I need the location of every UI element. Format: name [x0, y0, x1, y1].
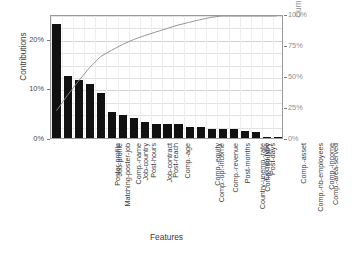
cumulative-line-path	[57, 16, 277, 111]
x-axis-tick-label: Comp.-asset	[299, 143, 308, 184]
x-axis-tick-label: Post-months	[243, 143, 252, 183]
x-axis-tick-label: Post-reach	[171, 143, 180, 178]
chart-figure: 0%10%20% 0%25%50%75%100% Contributions C…	[0, 0, 360, 255]
x-axis-tick-label: Comp.-revenue	[230, 143, 239, 193]
x-axis-tick-label: Comp.-income	[327, 143, 336, 190]
x-axis-tick-label: Comp.-equity	[212, 143, 221, 186]
y-axis-right-tick-label: 0%	[288, 134, 328, 143]
y-axis-right-tick-mark	[284, 139, 287, 140]
y-axis-right-tick-mark	[284, 15, 287, 16]
plot-area	[50, 15, 283, 139]
x-axis-tick-label: Comp.-nb-employees	[316, 143, 325, 212]
y-axis-right-tick-label: 25%	[288, 103, 328, 112]
y-axis-right-title: Cumulative contributions	[294, 0, 303, 28]
y-axis-right-tick-mark	[284, 46, 287, 47]
x-axis-tick-label: Post-hours	[149, 143, 158, 178]
y-axis-left-tick-label: 0%	[0, 134, 44, 143]
x-axis-tick-label: Comp.-age	[183, 143, 192, 179]
y-axis-right-tick-label: 50%	[288, 72, 328, 81]
x-axis-tick-label: Job-profile	[114, 143, 123, 177]
x-axis-category-labels: Matching-poster-jobPoster-profileJob-pro…	[50, 141, 283, 233]
y-axis-left-tick-mark	[47, 139, 50, 140]
x-axis-title: Features	[50, 232, 283, 242]
x-axis-tick-label: Post-days	[268, 143, 277, 175]
y-axis-right-tick-mark	[284, 108, 287, 109]
y-axis-right-tick-mark	[284, 77, 287, 78]
cumulative-line-series	[51, 16, 282, 139]
y-axis-left-title: Contributions	[19, 2, 28, 112]
y-axis-right-tick-label: 75%	[288, 41, 328, 50]
